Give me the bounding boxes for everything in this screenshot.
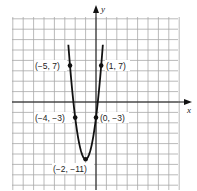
y-axis-label: y [100, 4, 105, 14]
x-axis-label: x [186, 105, 191, 115]
point-neg4-neg3 [73, 115, 78, 120]
y-axis-arrow-icon [93, 5, 99, 13]
point-vertex [83, 157, 88, 162]
point-label: (1, 7) [106, 61, 126, 71]
parabola-graph: x y (−5, 7) (1, 7) (−4, −3) (0, −3) (−2,… [0, 0, 197, 191]
point-1-7 [99, 63, 104, 68]
point-label: (−4, −3) [35, 113, 65, 123]
point-neg5-7 [68, 63, 73, 68]
point-0-neg3 [94, 115, 99, 120]
point-label: (−2, −11) [53, 164, 87, 174]
point-label: (0, −3) [100, 113, 125, 123]
point-label: (−5, 7) [35, 61, 60, 71]
